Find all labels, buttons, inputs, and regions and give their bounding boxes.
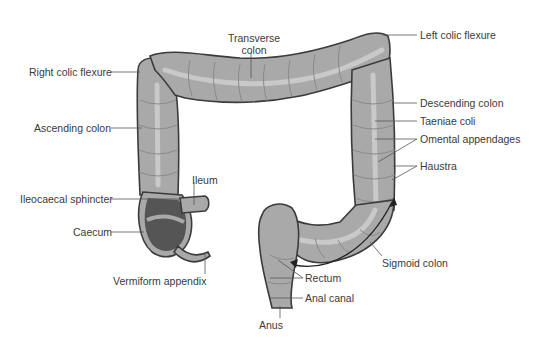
label-transverse-colon-line2: colon — [228, 44, 280, 56]
label-anus: Anus — [259, 319, 283, 331]
label-right-colic-flexure: Right colic flexure — [29, 66, 112, 78]
label-vermiform-appendix: Vermiform appendix — [113, 275, 206, 287]
rectum-shape — [259, 204, 299, 308]
label-omental-appendages: Omental appendages — [420, 133, 520, 145]
descending-colon-shape — [351, 58, 395, 215]
label-haustra: Haustra — [420, 160, 457, 172]
label-descending-colon: Descending colon — [420, 97, 503, 109]
label-transverse-colon: Transverse colon — [228, 32, 280, 56]
label-rectum: Rectum — [305, 272, 341, 284]
label-sigmoid-colon: Sigmoid colon — [382, 257, 448, 269]
label-left-colic-flexure: Left colic flexure — [420, 29, 496, 41]
label-anal-canal: Anal canal — [305, 292, 354, 304]
label-ileocaecal-sphincter: Ileocaecal sphincter — [20, 193, 113, 205]
label-ascending-colon: Ascending colon — [34, 122, 111, 134]
label-taeniae-coli: Taeniae coli — [420, 115, 475, 127]
label-transverse-colon-line1: Transverse — [228, 32, 280, 44]
label-ileum: Ileum — [192, 174, 218, 186]
sigmoid-colon-shape — [285, 200, 394, 263]
label-caecum: Caecum — [73, 226, 112, 238]
